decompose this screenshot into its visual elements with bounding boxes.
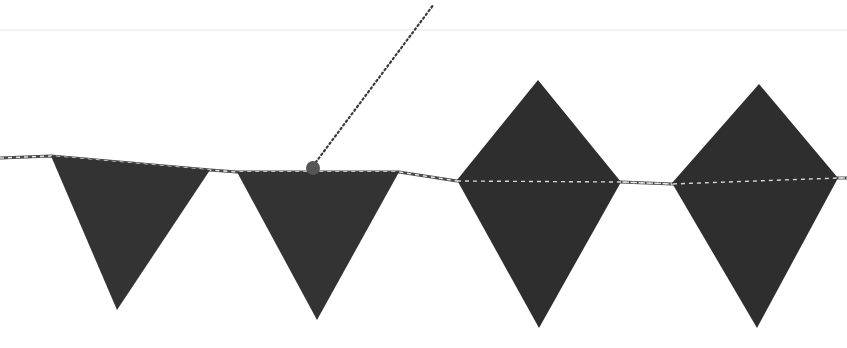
attachment-dot	[306, 161, 320, 175]
diamond-flag-3	[457, 80, 621, 328]
bunting-illustration	[0, 0, 847, 348]
triangle-flag-1	[51, 156, 210, 310]
hanging-cord	[313, 4, 434, 166]
triangle-flag-2	[237, 172, 399, 320]
diamond-flag-4	[672, 84, 838, 328]
bunting-image: Bunting flags hanging on a striped twine…	[0, 0, 847, 348]
flag-group	[51, 80, 838, 328]
